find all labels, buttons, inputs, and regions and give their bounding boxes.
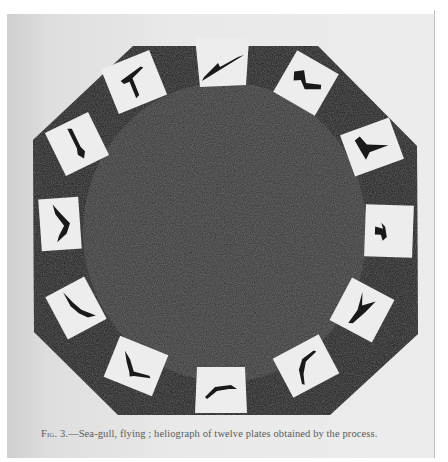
central-disk (83, 82, 367, 382)
plate-1 (195, 37, 249, 87)
plate-4 (364, 204, 414, 258)
plate-10 (38, 197, 82, 252)
heliograph-figure (0, 0, 448, 462)
caption-dash: — (68, 428, 79, 439)
plate-7 (195, 367, 247, 413)
caption-label: Fig. 3. (41, 428, 68, 439)
caption-text: Sea-gull, flying ; heliograph of twelve … (79, 428, 378, 439)
figure-caption: Fig. 3.—Sea-gull, flying ; heliograph of… (41, 428, 441, 439)
